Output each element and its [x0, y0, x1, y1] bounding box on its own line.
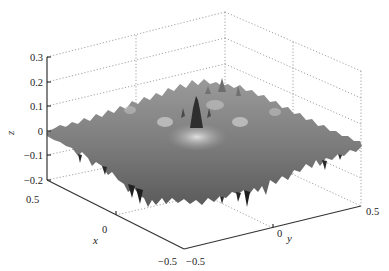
z-tick-neg0.1: −0.1	[24, 150, 43, 161]
z-tick-labels: 0.3 0.2 0.1 0 −0.1 −0.2	[24, 52, 43, 186]
y-tick-labels: −0.5 0 0.5	[186, 206, 379, 267]
x-tick-neg0.5: −0.5	[158, 256, 177, 267]
x-axis-label: x	[92, 234, 98, 246]
surface	[47, 78, 362, 207]
surface-plot: 0.3 0.2 0.1 0 −0.1 −0.2 z 0.5 0 −0.5 x −…	[0, 0, 389, 271]
y-tick-neg0.5: −0.5	[186, 256, 205, 267]
x-tick-0: 0	[102, 224, 107, 235]
z-axis-label: z	[4, 130, 16, 136]
y-tick-0.5: 0.5	[366, 206, 379, 217]
x-tick-0.5: 0.5	[26, 194, 39, 205]
z-tick-0.2: 0.2	[30, 77, 43, 88]
z-tick-0: 0	[38, 126, 43, 137]
x-tick-labels: 0.5 0 −0.5	[26, 194, 177, 267]
y-tick-0: 0	[277, 228, 282, 239]
z-tick-0.1: 0.1	[30, 101, 43, 112]
z-tick-0.3: 0.3	[30, 52, 43, 63]
y-axis-label: y	[286, 232, 292, 244]
z-tick-neg0.2: −0.2	[24, 175, 43, 186]
